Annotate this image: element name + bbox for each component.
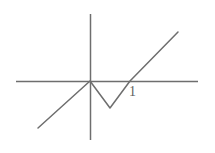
graph-canvas <box>0 0 215 153</box>
x-intercept-label: 1 <box>129 85 136 99</box>
figure-root: 1 <box>0 0 215 153</box>
piecewise-curve <box>38 32 178 128</box>
